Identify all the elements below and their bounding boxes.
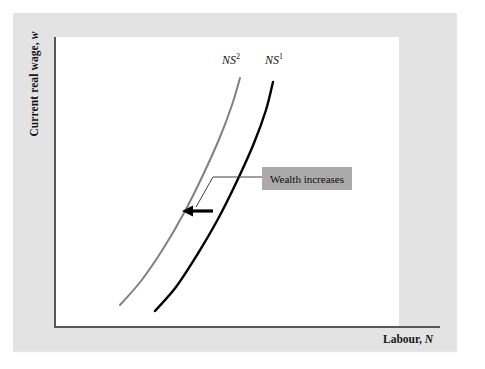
curve-label-ns2-superscript: 2 xyxy=(236,52,240,61)
annotation-leader-line xyxy=(196,177,262,207)
annotation-box: Wealth increases xyxy=(262,167,352,190)
curve-ns2 xyxy=(120,78,240,305)
curve-label-ns1-superscript: 1 xyxy=(279,52,283,61)
curve-layer xyxy=(0,0,485,369)
curve-ns1 xyxy=(155,82,273,311)
curve-label-ns1-base: NS xyxy=(265,53,279,67)
supply-curves xyxy=(120,78,273,311)
curve-label-ns2: NS2 xyxy=(222,52,240,68)
annotation-label: Wealth increases xyxy=(270,173,344,185)
figure-root: Current real wage, w Labour, N NS2 NS1 W… xyxy=(0,0,485,369)
curve-label-ns1: NS1 xyxy=(265,52,283,68)
curve-label-ns2-base: NS xyxy=(222,53,236,67)
